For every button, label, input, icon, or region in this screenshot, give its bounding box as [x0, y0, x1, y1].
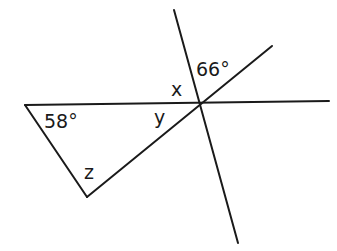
diagram-svg: 66° x y 58° z: [0, 0, 337, 251]
diagonal-line: [87, 46, 272, 197]
steep-transversal: [174, 10, 238, 243]
horizontal-line: [25, 101, 329, 105]
label-66-degrees: 66°: [196, 58, 230, 80]
label-z: z: [84, 161, 94, 183]
label-x: x: [171, 78, 182, 100]
angle-diagram: 66° x y 58° z: [0, 0, 337, 251]
label-58-degrees: 58°: [44, 110, 78, 132]
label-y: y: [154, 106, 165, 128]
